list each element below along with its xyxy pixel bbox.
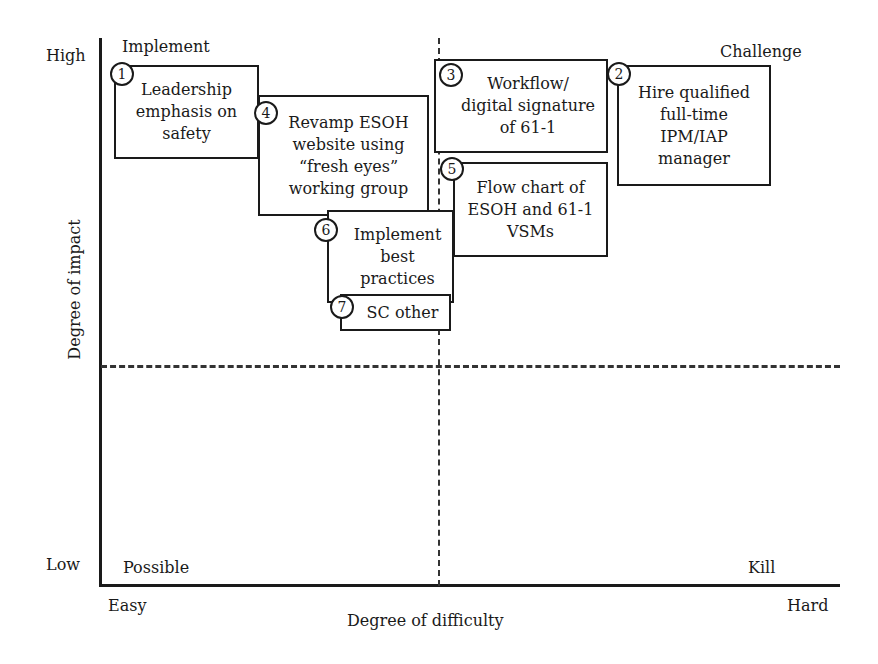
item-text: Leadership emphasis on safety <box>136 79 237 145</box>
y-axis-title: Degree of impact <box>65 210 84 370</box>
item-box-7: SC other <box>340 294 451 331</box>
item-text: Hire qualified full-time IPM/IAP manager <box>638 82 750 170</box>
y-high-label: High <box>46 47 86 65</box>
item-number-badge: 6 <box>314 218 338 242</box>
x-easy-label: Easy <box>108 597 146 615</box>
item-text: SC other <box>367 302 439 324</box>
item-text: Revamp ESOH website using “fresh eyes” w… <box>288 112 408 200</box>
y-axis-line <box>99 38 102 587</box>
item-box-6: Implement best practices <box>327 210 454 303</box>
x-axis-title: Degree of difficulty <box>347 612 504 630</box>
quadrant-kill-label: Kill <box>748 559 775 577</box>
item-number-badge: 5 <box>440 157 464 181</box>
item-text: Flow chart of ESOH and 61-1 VSMs <box>468 177 594 243</box>
quadrant-implement-label: Implement <box>122 38 210 56</box>
item-box-5: Flow chart of ESOH and 61-1 VSMs <box>453 162 608 257</box>
item-number-badge: 2 <box>607 62 631 86</box>
item-text: Implement best practices <box>354 224 442 290</box>
y-low-label: Low <box>46 556 80 574</box>
x-axis-line <box>99 584 840 587</box>
item-box-2: Hire qualified full-time IPM/IAP manager <box>617 65 771 186</box>
x-hard-label: Hard <box>787 597 828 615</box>
quadrant-challenge-label: Challenge <box>720 43 802 61</box>
item-number-badge: 3 <box>439 63 463 87</box>
item-number-badge: 4 <box>254 101 278 125</box>
horizontal-divider-dashed <box>101 365 840 368</box>
quadrant-possible-label: Possible <box>123 559 189 577</box>
item-number-badge: 7 <box>330 295 354 319</box>
item-text: Workflow/ digital signature of 61-1 <box>461 73 595 139</box>
item-number-badge: 1 <box>110 62 134 86</box>
item-box-4: Revamp ESOH website using “fresh eyes” w… <box>258 95 429 216</box>
item-box-1: Leadership emphasis on safety <box>114 65 259 159</box>
